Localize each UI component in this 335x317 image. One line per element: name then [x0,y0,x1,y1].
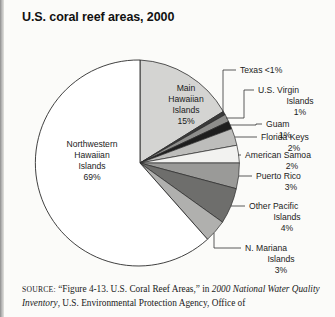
source-prefix: SOURCE: [22,285,56,294]
leader-line-n-mariana-islands [214,233,241,248]
pie-label-value: 69% [83,172,101,182]
figure-page: U.S. coral reef areas, 2000 [4,0,335,317]
pie-chart: Main Hawaiian Islands 15% Northwestern H… [4,0,335,275]
pie-callout-puerto-rico: Puerto Rico 3% [256,171,301,192]
pie-label-value: 15% [177,116,195,126]
source-text-part2: , U.S. Environmental Protection Agency, … [58,298,246,308]
callout-line1: Other Pacific [249,201,299,211]
pie-chart-svg: Main Hawaiian Islands 15% Northwestern H… [4,0,335,275]
callout-line2: 2% [286,161,299,171]
callout-line1: N. Mariana [245,243,287,253]
callout-line3: 3% [275,265,288,275]
pie-label-line3: Islands [78,161,105,171]
callout-line1: Puerto Rico [256,171,301,181]
pie-callout-other-pacific-islands: Other Pacific Islands 4% [249,201,301,233]
pie-label-line3: Islands [172,105,199,115]
pie-label-line2: Hawaiian [168,94,204,104]
pie-callout-n-mariana-islands: N. Mariana Islands 3% [245,243,295,275]
pie-callout-texas: Texas <1% [240,65,283,75]
pie-label-line1: Main [177,83,196,93]
pie-callout-us-virgin-islands: U.S. Virgin Islands 1% [258,85,314,117]
callout-line2: Islands [273,212,300,222]
leader-line-texas [223,70,236,114]
pie-label-line2: Hawaiian [74,150,110,160]
callout-line3: 1% [294,107,307,117]
callout-line1: Florida Keys [261,132,309,142]
leader-line-us-virgin-islands [226,90,254,118]
pie-label-line1: Northwestern [66,139,117,149]
callout-line1: Guam [266,119,289,129]
source-text-part1: “Figure 4-13. U.S. Coral Reef Areas,” in [56,284,212,294]
source-note: SOURCE: “Figure 4-13. U.S. Coral Reef Ar… [22,283,322,309]
leader-line-guam [230,124,262,125]
callout-line1: American Samoa [245,150,311,160]
callout-line1: U.S. Virgin [258,85,299,95]
callout-line3: 4% [281,223,294,233]
callout-line1: Texas <1% [240,65,283,75]
callout-line2: 3% [285,182,298,192]
callout-line2: Islands [267,254,294,264]
pie-callout-american-samoa: American Samoa 2% [245,150,311,171]
callout-line2: Islands [286,96,313,106]
